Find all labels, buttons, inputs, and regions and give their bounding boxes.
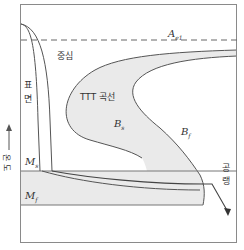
surface-label-2: 면 [24,92,32,105]
ae1-label: Ae1 [168,28,183,41]
bf-label: Bf [181,126,191,139]
mf-label: Mf [25,190,37,203]
ms-label: Ms [25,156,38,169]
air-cooling-label-1: 공 [222,161,230,174]
surface-label-1: 표 [24,78,32,91]
center-label: 중심 [57,49,73,62]
y-axis-label-1: 온 [2,154,13,161]
air-cooling-label-2: 랭 [222,174,230,187]
y-axis-label-2: 도 [2,164,13,171]
bs-label: Bs [114,118,124,131]
ttt-curve-label: TTT 곡선 [80,90,115,103]
